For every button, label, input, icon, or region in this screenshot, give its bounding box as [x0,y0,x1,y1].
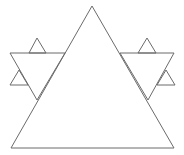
right-side-small-triangle [157,70,175,85]
diagram-svg [0,0,184,155]
left-side-small-triangle [10,70,28,85]
large-triangle [11,6,174,148]
triangle-group [10,6,175,148]
left-inverted-triangle [10,53,65,100]
right-top-small-triangle [138,38,156,53]
right-inverted-triangle [120,53,174,100]
left-top-small-triangle [29,38,46,53]
fractal-triangle-diagram [0,0,184,155]
